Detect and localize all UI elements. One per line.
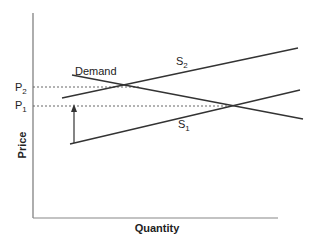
s2-label: S2 <box>176 55 188 70</box>
demand-label: Demand <box>75 65 117 77</box>
supply-demand-diagram: Demand S2 S1 P2 P1 Quantity Price <box>0 0 318 246</box>
x-axis-label: Quantity <box>135 222 180 234</box>
p1-label: P1 <box>15 99 27 114</box>
arrow-up-icon <box>71 104 77 112</box>
s1-label: S1 <box>178 118 190 133</box>
supply-curve-s1 <box>70 90 300 144</box>
p2-label: P2 <box>15 81 27 96</box>
y-axis-label: Price <box>16 132 28 159</box>
